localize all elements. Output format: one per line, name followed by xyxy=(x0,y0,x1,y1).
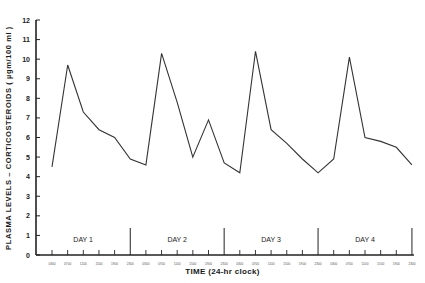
y-tick-label: 4 xyxy=(26,173,30,180)
y-tick-label: 11 xyxy=(23,36,31,43)
x-tick-label: 0300 xyxy=(142,262,149,266)
y-tick-label: 6 xyxy=(26,134,30,141)
x-tick-label: 1900 xyxy=(393,262,400,266)
y-tick-label: 0 xyxy=(26,252,30,259)
day-label: DAY 1 xyxy=(73,236,93,243)
y-tick-label: 10 xyxy=(22,56,30,63)
x-tick-label: 0300 xyxy=(48,262,55,266)
x-tick-label: 0300 xyxy=(236,262,243,266)
x-tick-label: 1900 xyxy=(111,262,118,266)
x-tick-label: 1500 xyxy=(377,262,384,266)
day-band: DAY 1DAY 2DAY 3DAY 4 xyxy=(73,228,412,255)
y-tick-label: 3 xyxy=(26,193,30,200)
x-tick-label: 1100 xyxy=(80,262,87,266)
x-tick-label: 1500 xyxy=(95,262,102,266)
x-tick-label: 2300 xyxy=(315,262,322,266)
y-axis-title: PLASMA LEVELS – CORTICOSTEROIDS ( µgm/10… xyxy=(4,26,13,250)
x-tick-label: 2300 xyxy=(221,262,228,266)
x-tick-label: 1500 xyxy=(283,262,290,266)
x-tick-label: 0300 xyxy=(330,262,337,266)
x-tick-label: 1900 xyxy=(205,262,212,266)
x-tick-label: 1900 xyxy=(299,262,306,266)
x-tick-label: 1100 xyxy=(362,262,369,266)
x-tick-label: 0700 xyxy=(252,262,259,266)
x-tick-label: 0700 xyxy=(64,262,71,266)
y-tick-label: 12 xyxy=(22,17,30,24)
x-tick-label: 0700 xyxy=(158,262,165,266)
x-tick-label: 0700 xyxy=(346,262,353,266)
x-tick-label: 1100 xyxy=(174,262,181,266)
x-axis-title: TIME (24-hr clock) xyxy=(0,267,425,276)
x-tick-label: 1100 xyxy=(268,262,275,266)
y-tick-label: 9 xyxy=(26,75,30,82)
y-tick-label: 2 xyxy=(26,212,30,219)
x-axis: 0300070011001500190023000300070011001500… xyxy=(36,250,416,266)
y-tick-label: 8 xyxy=(26,95,30,102)
y-tick-label: 7 xyxy=(26,114,30,121)
y-axis: 0123456789101112 xyxy=(22,17,40,259)
day-label: DAY 4 xyxy=(355,236,375,243)
x-tick-label: 1500 xyxy=(189,262,196,266)
day-label: DAY 2 xyxy=(167,236,187,243)
y-tick-label: 5 xyxy=(26,154,30,161)
data-line xyxy=(52,51,412,173)
x-tick-label: 2300 xyxy=(408,262,415,266)
y-tick-label: 1 xyxy=(26,232,30,239)
day-label: DAY 3 xyxy=(261,236,281,243)
corticosteroid-line-chart: 0123456789101112 03000700110015001900230… xyxy=(0,0,425,283)
y-axis-title-wrap: PLASMA LEVELS – CORTICOSTEROIDS ( µgm/10… xyxy=(0,18,16,258)
x-tick-label: 2300 xyxy=(127,262,134,266)
